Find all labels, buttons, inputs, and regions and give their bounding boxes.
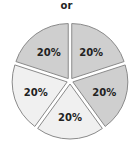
slice-label: 20% — [58, 112, 82, 123]
pie-chart: 20%20%20%20%20% — [0, 0, 133, 151]
slice-label: 20% — [37, 47, 61, 58]
slice-label: 20% — [79, 47, 103, 58]
slice-label: 20% — [92, 87, 116, 98]
slice-label: 20% — [24, 87, 48, 98]
